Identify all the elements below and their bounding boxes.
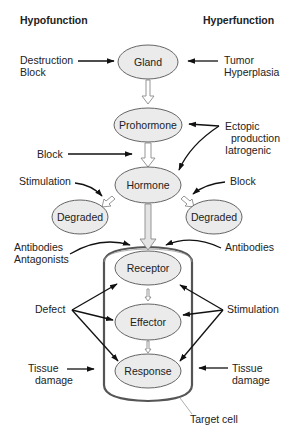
svg-text:Degraded: Degraded [191, 211, 237, 223]
node-hormone: Hormone [115, 167, 181, 203]
label-production: production [231, 132, 280, 144]
header-hyperfunction: Hyperfunction [203, 14, 274, 26]
node-gland: Gland [118, 45, 178, 79]
label-tumor: Tumor [224, 54, 254, 66]
svg-text:Degraded: Degraded [57, 211, 103, 223]
hollow-arrow-hormone-degraded-left [102, 196, 115, 207]
arrow-antibodies-right-to-receptor [166, 240, 221, 248]
label-tissue-left: Tissue [28, 362, 59, 374]
label-antibodies-left: Antibodies [14, 241, 63, 253]
node-degraded-left: Degraded [52, 200, 108, 234]
svg-text:Gland: Gland [134, 56, 162, 68]
label-hyperplasia: Hyperplasia [224, 66, 280, 78]
svg-text:Hormone: Hormone [126, 179, 169, 191]
arrow-ectopic-to-hormone [179, 126, 219, 170]
header-hypofunction: Hypofunction [20, 14, 88, 26]
svg-text:Effector: Effector [130, 316, 166, 328]
svg-text:Receptor: Receptor [127, 262, 170, 274]
label-stimulation-left: Stimulation [19, 175, 71, 187]
node-prohormone: Prohormone [114, 108, 182, 142]
node-effector: Effector [115, 304, 181, 340]
hollow-arrow-hormone-receptor [140, 204, 156, 250]
label-antibodies-right: Antibodies [225, 241, 274, 253]
label-block-right: Block [230, 175, 256, 187]
hollow-arrow-gland-prohormone [142, 80, 154, 104]
svg-text:Prohormone: Prohormone [119, 119, 177, 131]
label-ectopic: Ectopic [225, 120, 259, 132]
label-defect: Defect [35, 303, 65, 315]
label-damage-right: damage [232, 374, 270, 386]
label-block-2: Block [37, 148, 63, 160]
label-tissue-right: Tissue [232, 362, 263, 374]
node-response: Response [115, 354, 181, 388]
label-target-cell: Target cell [190, 413, 238, 425]
arrow-block-to-degradation [193, 182, 225, 194]
hollow-arrow-hormone-degraded-right [181, 196, 194, 207]
hollow-arrow-prohormone-hormone [141, 143, 155, 167]
label-destruction: Destruction [20, 54, 73, 66]
endocrine-diagram: Hypofunction Hyperfunction Gland Prohorm… [0, 0, 295, 433]
svg-text:Response: Response [124, 365, 171, 377]
label-antagonists: Antagonists [14, 253, 69, 265]
node-receptor: Receptor [115, 251, 181, 285]
node-degraded-right: Degraded [186, 200, 242, 234]
label-iatrogenic: Iatrogenic [225, 144, 271, 156]
label-damage-left: damage [35, 374, 73, 386]
label-stimulation-right: Stimulation [227, 303, 279, 315]
arrow-ectopic-to-prohormone [189, 124, 219, 126]
label-block-1: Block [20, 66, 46, 78]
arrow-stimulation-to-degradation [75, 183, 102, 196]
